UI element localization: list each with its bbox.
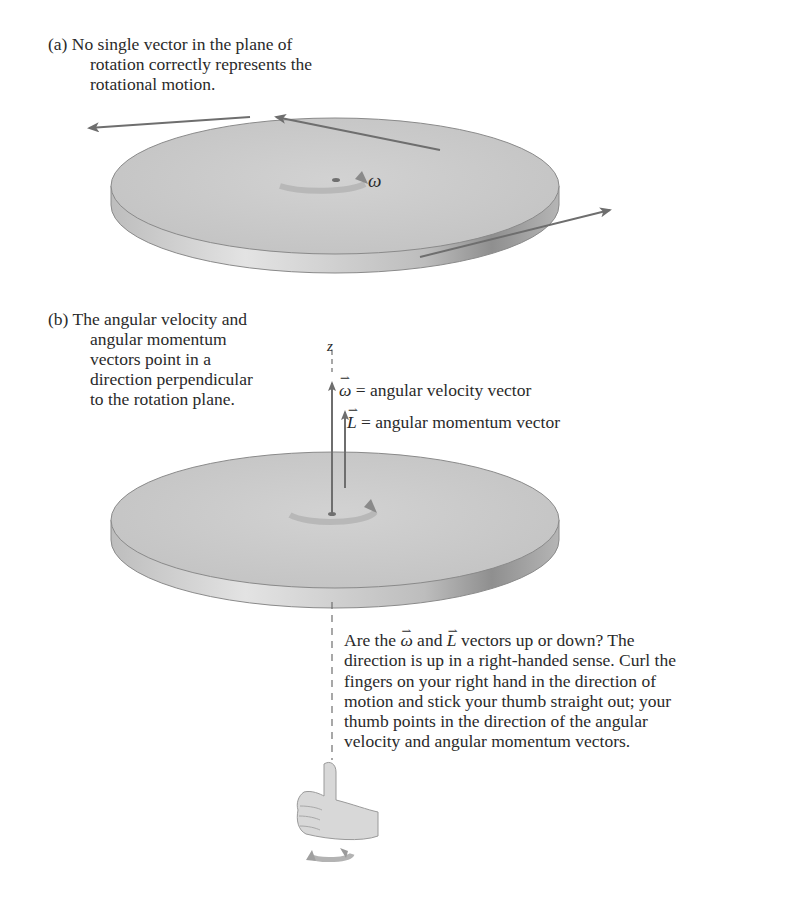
explanation-line-4: motion and stick your thumb straight out… [344, 691, 784, 711]
vector-arrow-icon: ⇀ [448, 621, 458, 641]
explanation-line-1-mid: and [413, 630, 447, 650]
disk-a [111, 118, 559, 273]
explanation-line-5: thumb points in the direction of the ang… [344, 711, 784, 731]
explanation-line-3: fingers on your right hand in the direct… [344, 671, 784, 691]
omega-definition: ⇀ω = angular velocity vector [339, 380, 531, 401]
caption-a-line-2: rotation correctly represents the [48, 54, 348, 74]
caption-b-line-3: vectors point in a [48, 349, 308, 369]
caption-b: (b) The angular velocity and angular mom… [48, 309, 308, 409]
caption-b-line-2: angular momentum [48, 329, 308, 349]
vector-arrow-icon: ⇀ [348, 403, 358, 418]
caption-b-line-5: to the rotation plane. [48, 389, 308, 409]
caption-b-line-1: The angular velocity and [72, 309, 246, 329]
explanation-line-1-pre: Are the [344, 630, 400, 650]
caption-a-line-3: rotational motion. [48, 74, 348, 94]
explanation-line-1-post: vectors up or down? The [457, 630, 635, 650]
vector-arrow-icon: ⇀ [401, 621, 411, 641]
caption-a: (a) No single vector in the plane of rot… [48, 34, 348, 94]
L-definition: ⇀L = angular momentum vector [347, 412, 560, 433]
explanation-line-6: velocity and angular momentum vectors. [344, 731, 784, 751]
omega-label-a: ω [368, 170, 381, 192]
panel-b-label: (b) [48, 309, 68, 329]
right-hand-icon [297, 762, 378, 839]
caption-a-line-1: No single vector in the plane of [72, 34, 293, 54]
vector-arrow-icon: ⇀ [340, 371, 350, 386]
explanation-line-2: direction is up in a right-handed sense.… [344, 650, 784, 670]
z-axis-label: z [327, 338, 333, 355]
figure-graphics [0, 0, 804, 918]
panel-a-label: (a) [48, 34, 67, 54]
explanation-text: Are the ⇀ω and ⇀L vectors up or down? Th… [344, 630, 784, 752]
omega-definition-text: = angular velocity vector [351, 380, 531, 400]
rotation-arrow-icon [306, 848, 352, 861]
disk-b [111, 452, 559, 608]
L-definition-text: = angular momentum vector [357, 412, 560, 432]
caption-b-line-4: direction perpendicular [48, 369, 308, 389]
